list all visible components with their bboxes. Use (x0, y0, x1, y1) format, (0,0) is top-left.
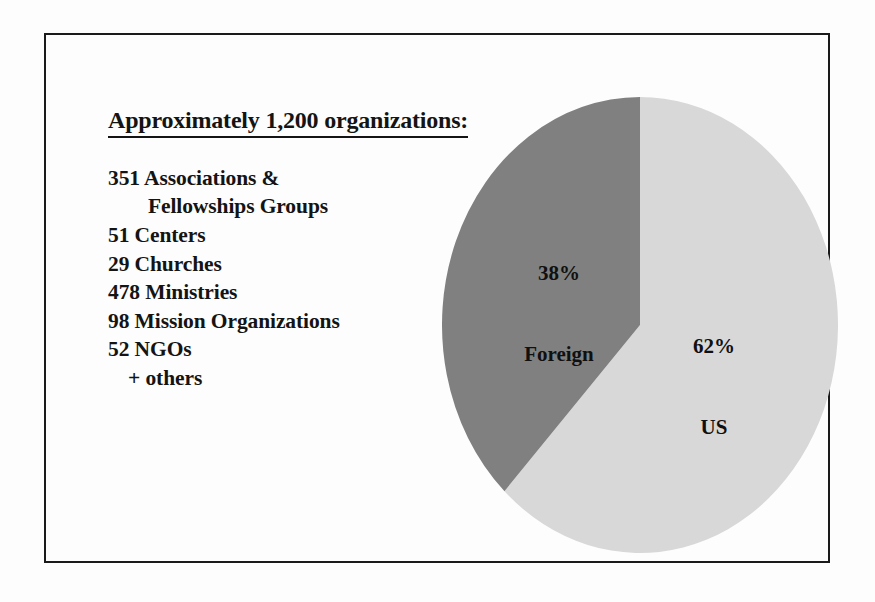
list-item: 52 NGOs (108, 335, 438, 364)
pie-slice-percent-us: 62% (654, 333, 774, 360)
pie-slice-label-us: 62% US (654, 278, 774, 496)
list-heading: Approximately 1,200 organizations: (108, 107, 468, 138)
list-item: + others (108, 364, 438, 393)
slide-frame: Approximately 1,200 organizations: 351 A… (44, 33, 830, 563)
pie-slice-percent-foreign: 38% (494, 260, 624, 287)
pie-slice-name-foreign: Foreign (494, 341, 624, 368)
list-item: 478 Ministries (108, 278, 438, 307)
list-item: 98 Mission Organizations (108, 307, 438, 336)
list-item: 351 Associations & (108, 164, 438, 193)
organization-text-block: Approximately 1,200 organizations: 351 A… (108, 107, 438, 393)
organization-list: 351 Associations & Fellowships Groups 51… (108, 164, 438, 393)
list-item: Fellowships Groups (108, 192, 438, 221)
list-item: 29 Churches (108, 250, 438, 279)
list-item: 51 Centers (108, 221, 438, 250)
pie-chart: 38% Foreign 62% US (442, 95, 838, 553)
page-background: Approximately 1,200 organizations: 351 A… (0, 0, 875, 602)
pie-slice-label-foreign: 38% Foreign (494, 205, 624, 423)
pie-slice-name-us: US (654, 414, 774, 441)
